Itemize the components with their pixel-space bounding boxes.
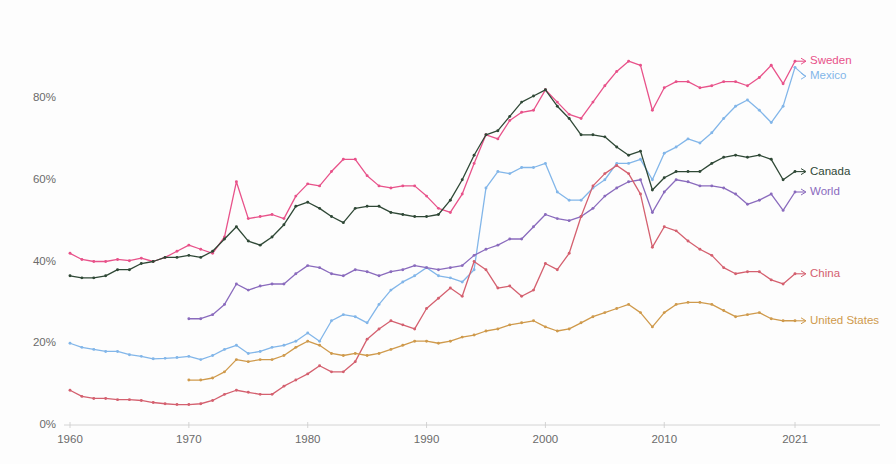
data-point — [770, 193, 773, 196]
data-point — [473, 162, 476, 165]
x-tick-label: 1960 — [57, 433, 83, 445]
series-lines-group — [69, 60, 797, 406]
data-point — [235, 225, 238, 228]
data-point — [425, 266, 428, 269]
data-point — [639, 193, 642, 196]
data-point — [508, 119, 511, 122]
data-point — [556, 191, 559, 194]
data-point — [330, 370, 333, 373]
data-point — [413, 340, 416, 343]
data-point — [437, 268, 440, 271]
data-point — [366, 270, 369, 273]
data-point — [378, 327, 381, 330]
data-point — [413, 327, 416, 330]
data-point — [496, 129, 499, 132]
data-point — [639, 178, 642, 181]
data-point — [627, 180, 630, 183]
data-point — [461, 336, 464, 339]
data-point — [782, 209, 785, 212]
line-chart-svg: 0%20%40%60%80% 1960197019801990200020102… — [0, 0, 896, 464]
data-point — [556, 268, 559, 271]
data-point — [663, 176, 666, 179]
data-point — [485, 186, 488, 189]
data-point — [651, 325, 654, 328]
data-point — [746, 203, 749, 206]
data-point — [770, 278, 773, 281]
data-point — [675, 146, 678, 149]
series-label-world[interactable]: World — [810, 185, 840, 197]
data-point — [92, 276, 95, 279]
data-point — [603, 311, 606, 314]
data-point — [437, 213, 440, 216]
data-point — [235, 283, 238, 286]
data-point — [128, 398, 131, 401]
data-point — [306, 201, 309, 204]
data-point — [223, 348, 226, 351]
data-point — [223, 238, 226, 241]
data-point — [318, 340, 321, 343]
data-point — [223, 370, 226, 373]
data-point — [104, 260, 107, 263]
data-point — [556, 101, 559, 104]
data-point — [247, 289, 250, 292]
data-point — [140, 262, 143, 265]
data-point — [698, 184, 701, 187]
data-point — [259, 358, 262, 361]
data-point — [187, 355, 190, 358]
data-point — [722, 156, 725, 159]
data-point — [722, 266, 725, 269]
data-point — [306, 332, 309, 335]
series-label-canada[interactable]: Canada — [810, 165, 851, 177]
data-point — [687, 180, 690, 183]
data-point — [80, 346, 83, 349]
data-point — [746, 84, 749, 87]
data-point — [211, 313, 214, 316]
series-label-united-states[interactable]: United States — [810, 314, 879, 326]
series-label-sweden[interactable]: Sweden — [810, 54, 852, 66]
data-point — [461, 295, 464, 298]
data-point — [675, 303, 678, 306]
data-point — [330, 215, 333, 218]
data-point — [199, 248, 202, 251]
data-point — [69, 252, 72, 255]
data-point — [603, 178, 606, 181]
data-point — [758, 311, 761, 314]
data-point — [152, 357, 155, 360]
data-point — [354, 207, 357, 210]
series-label-mexico[interactable]: Mexico — [810, 69, 846, 81]
data-point — [247, 391, 250, 394]
data-point — [271, 236, 274, 239]
data-point — [508, 115, 511, 118]
series-united-states — [187, 301, 796, 382]
data-point — [164, 402, 167, 405]
series-line — [189, 180, 795, 319]
data-point — [318, 364, 321, 367]
data-point — [663, 311, 666, 314]
data-point — [544, 213, 547, 216]
data-point — [473, 268, 476, 271]
data-point — [104, 274, 107, 277]
data-point — [330, 319, 333, 322]
data-point — [520, 321, 523, 324]
data-point — [389, 289, 392, 292]
data-point — [687, 240, 690, 243]
data-point — [580, 215, 583, 218]
data-point — [294, 346, 297, 349]
data-point — [520, 111, 523, 114]
data-point — [758, 76, 761, 79]
y-tick-label: 80% — [33, 91, 56, 103]
data-point — [627, 172, 630, 175]
data-point — [710, 303, 713, 306]
data-point — [354, 268, 357, 271]
data-point — [651, 189, 654, 192]
data-point — [378, 274, 381, 277]
series-label-china[interactable]: China — [810, 267, 841, 279]
data-point — [366, 354, 369, 357]
gridlines-group — [64, 98, 880, 425]
data-point — [449, 340, 452, 343]
data-point — [176, 356, 179, 359]
data-point — [698, 170, 701, 173]
y-tick-label: 20% — [33, 336, 56, 348]
data-point — [687, 80, 690, 83]
data-point — [734, 315, 737, 318]
